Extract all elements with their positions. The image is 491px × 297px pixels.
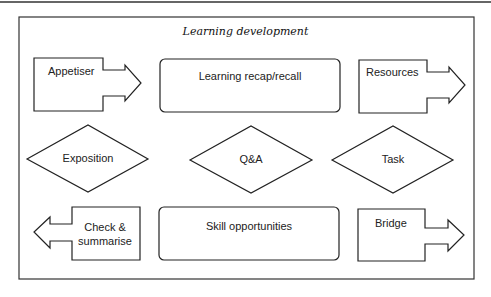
- check-label-line2: summarise: [78, 235, 132, 247]
- bridge-shape: [358, 209, 464, 261]
- diagram-canvas: [0, 0, 491, 297]
- appetiser-label: Appetiser: [48, 65, 94, 77]
- recap-label: Learning recap/recall: [199, 70, 302, 82]
- skill-label: Skill opportunities: [206, 220, 292, 232]
- skill-shape: [159, 207, 339, 260]
- diagram-title: Learning development: [0, 25, 491, 38]
- qa-label: Q&A: [239, 153, 262, 165]
- bridge-label: Bridge: [375, 217, 407, 229]
- recap-shape: [160, 59, 340, 112]
- exposition-label: Exposition: [63, 152, 114, 164]
- check-shape: [34, 207, 140, 260]
- check-label-line1: Check &: [84, 221, 126, 233]
- task-label: Task: [382, 153, 405, 165]
- resources-label: Resources: [366, 66, 419, 78]
